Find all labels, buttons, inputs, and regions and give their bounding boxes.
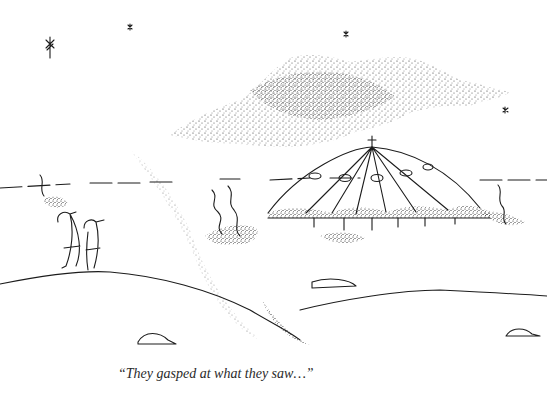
caption: “They gasped at what they saw…”: [118, 366, 314, 382]
debris: [42, 197, 525, 345]
right-hill: [300, 290, 547, 310]
smoke-wisps: [40, 175, 506, 236]
foreground-hill: [0, 272, 300, 340]
onlooker-figures: [58, 212, 104, 270]
dome-structure: [268, 136, 490, 230]
cartoon-illustration: [0, 0, 547, 403]
horizon-line: [0, 178, 547, 188]
stippled-cloud: [130, 55, 510, 340]
